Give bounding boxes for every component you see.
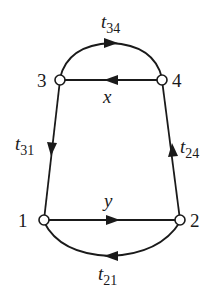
edge-2-to-4 (162, 80, 180, 220)
arrow-right-icon (106, 215, 120, 225)
arrow-right-icon (104, 38, 118, 48)
edge-label-t31: t31 (15, 133, 34, 158)
edge-label-t24: t24 (180, 136, 199, 161)
edge-label-x: x (102, 86, 112, 107)
node-label-1: 1 (18, 210, 28, 231)
signal-flow-graph: 3 4 1 2 t34 x t31 t24 y t21 (0, 0, 218, 299)
edge-3-to-4 (60, 38, 162, 78)
edge-label-t34: t34 (101, 11, 120, 36)
edge-2-to-1 (44, 222, 180, 261)
arrow-left-icon (104, 75, 118, 85)
edge-label-y: y (102, 190, 113, 211)
arrow-left-icon (104, 251, 118, 261)
edge-3-to-1 (44, 80, 60, 220)
node-3 (55, 75, 65, 85)
edge-label-t21: t21 (98, 263, 117, 288)
edge-4-to-3 (60, 75, 162, 85)
edge-1-to-2 (44, 215, 180, 225)
node-4 (157, 75, 167, 85)
node-1 (39, 215, 49, 225)
node-2 (175, 215, 185, 225)
node-label-3: 3 (37, 70, 47, 91)
node-label-2: 2 (190, 210, 200, 231)
node-label-4: 4 (172, 70, 182, 91)
